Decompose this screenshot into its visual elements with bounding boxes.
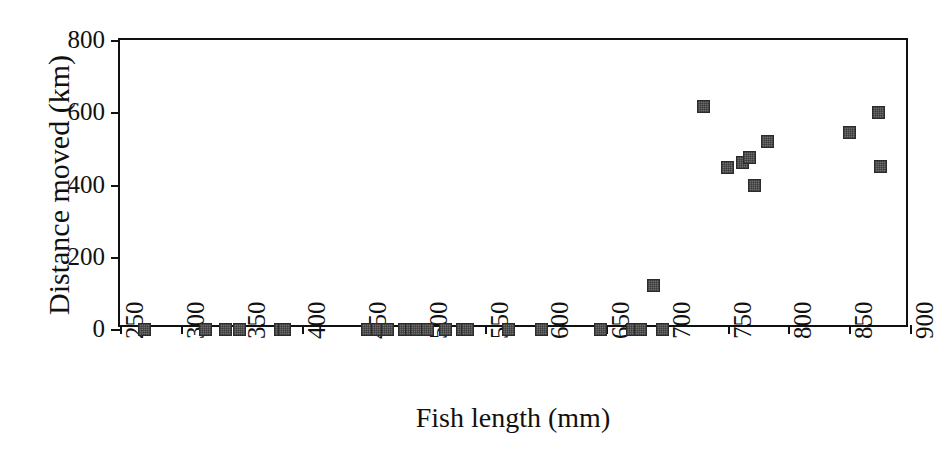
data-point-marker bbox=[278, 323, 291, 336]
x-tick-label: 350 bbox=[244, 302, 269, 340]
data-point-marker bbox=[874, 160, 887, 173]
data-point-marker bbox=[381, 323, 394, 336]
data-point-marker bbox=[872, 106, 885, 119]
data-point-marker bbox=[199, 323, 212, 336]
data-point-marker bbox=[761, 135, 774, 148]
x-tick-label: 900 bbox=[912, 302, 937, 340]
x-tick: 550 bbox=[485, 325, 487, 334]
x-tick: 300 bbox=[181, 325, 183, 334]
data-point-marker bbox=[721, 161, 734, 174]
data-point-marker bbox=[656, 323, 669, 336]
data-point-marker bbox=[535, 323, 548, 336]
data-point-marker bbox=[594, 323, 607, 336]
y-tick: 600 bbox=[111, 112, 120, 114]
data-point-marker bbox=[461, 323, 474, 336]
data-point-marker bbox=[439, 323, 452, 336]
x-tick: 850 bbox=[849, 325, 851, 334]
data-point-marker bbox=[634, 323, 647, 336]
x-tick-label: 850 bbox=[851, 302, 876, 340]
data-point-marker bbox=[647, 279, 660, 292]
data-point-marker bbox=[219, 323, 232, 336]
x-tick-label: 800 bbox=[790, 302, 815, 340]
data-point-marker bbox=[748, 179, 761, 192]
plot-area: 0200400600800 25030035040045050055060065… bbox=[118, 38, 908, 327]
y-tick: 400 bbox=[111, 185, 120, 187]
x-tick-label: 750 bbox=[730, 302, 755, 340]
data-point-marker bbox=[843, 126, 856, 139]
x-tick: 400 bbox=[302, 325, 304, 334]
y-tick: 0 bbox=[111, 329, 120, 331]
data-point-marker bbox=[697, 100, 710, 113]
data-point-marker bbox=[502, 323, 515, 336]
x-tick: 800 bbox=[788, 325, 790, 334]
y-tick-label: 600 bbox=[68, 99, 106, 124]
x-tick: 750 bbox=[728, 325, 730, 334]
x-tick-label: 700 bbox=[669, 302, 694, 340]
scatter-chart-figure: Distance moved (km) Fish length (mm) 020… bbox=[0, 0, 946, 453]
x-axis-title: Fish length (mm) bbox=[118, 402, 908, 434]
y-tick-label: 200 bbox=[68, 244, 106, 269]
x-tick-label: 600 bbox=[547, 302, 572, 340]
data-point-marker bbox=[421, 323, 434, 336]
y-tick-label: 400 bbox=[68, 172, 106, 197]
y-tick: 800 bbox=[111, 40, 120, 42]
data-point-marker bbox=[743, 151, 756, 164]
data-point-marker bbox=[138, 323, 151, 336]
data-point-marker bbox=[233, 323, 246, 336]
x-tick: 900 bbox=[910, 325, 912, 334]
y-tick: 200 bbox=[111, 257, 120, 259]
x-tick: 250 bbox=[120, 325, 122, 334]
y-tick-label: 0 bbox=[93, 316, 106, 341]
x-tick-label: 400 bbox=[304, 302, 329, 340]
y-tick-label: 800 bbox=[68, 27, 106, 52]
